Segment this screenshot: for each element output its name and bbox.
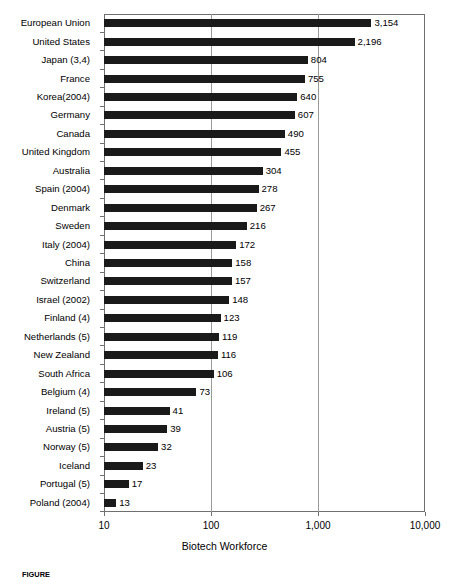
bar-row: Iceland23	[0, 457, 449, 475]
value-label: 607	[298, 110, 314, 120]
x-axis-tick	[318, 512, 319, 516]
value-label: 2,196	[358, 37, 382, 47]
value-label: 216	[250, 221, 266, 231]
category-label: Poland (2004)	[0, 498, 90, 508]
category-label: Sweden	[0, 221, 90, 231]
bar	[104, 148, 281, 156]
bar-row: Israel (2002)148	[0, 291, 449, 309]
x-axis-title: Biotech Workforce	[0, 540, 449, 552]
bar	[104, 314, 221, 322]
value-label: 13	[119, 498, 130, 508]
value-label: 106	[217, 369, 233, 379]
bar-row: Austria (5)39	[0, 420, 449, 438]
value-label: 148	[232, 295, 248, 305]
bar	[104, 333, 219, 341]
bar	[104, 277, 232, 285]
x-axis-tick-label: 100	[181, 520, 241, 531]
bar	[104, 259, 232, 267]
bar-row: New Zealand116	[0, 346, 449, 364]
x-axis-tick-label: 1,000	[288, 520, 348, 531]
bar	[104, 241, 236, 249]
category-label: Finland (4)	[0, 313, 90, 323]
bar	[104, 93, 297, 101]
bar-row: Korea(2004)640	[0, 88, 449, 106]
bar	[104, 222, 247, 230]
figure-biotech-workforce: European Union3,154United States2,196Jap…	[0, 0, 449, 578]
bar-row: Portugal (5)17	[0, 475, 449, 493]
bar-row: China158	[0, 254, 449, 272]
value-label: 119	[222, 332, 237, 342]
value-label: 41	[173, 406, 184, 416]
value-label: 640	[300, 92, 316, 102]
bar-rows: European Union3,154United States2,196Jap…	[0, 0, 449, 578]
category-label: European Union	[0, 18, 90, 28]
figure-caption: FIGURE	[22, 571, 432, 578]
bar-row: Norway (5)32	[0, 438, 449, 456]
category-label: Israel (2002)	[0, 295, 90, 305]
bar	[104, 130, 285, 138]
bar-row: Italy (2004)172	[0, 235, 449, 253]
category-label: Norway (5)	[0, 442, 90, 452]
category-label: China	[0, 258, 90, 268]
category-label: Italy (2004)	[0, 240, 90, 250]
bar	[104, 407, 170, 415]
value-label: 73	[199, 387, 210, 397]
category-label: Canada	[0, 129, 90, 139]
bar	[104, 425, 167, 433]
value-label: 455	[284, 147, 300, 157]
value-label: 755	[308, 74, 324, 84]
bar	[104, 499, 116, 507]
bar	[104, 370, 214, 378]
value-label: 123	[224, 313, 240, 323]
category-label: Switzerland	[0, 276, 90, 286]
bar-row: United Kingdom455	[0, 143, 449, 161]
bar	[104, 111, 295, 119]
category-label: Belgium (4)	[0, 387, 90, 397]
bar-row: Poland (2004)13	[0, 494, 449, 512]
value-label: 304	[266, 166, 282, 176]
bar	[104, 75, 305, 83]
caption-prefix: FIGURE	[22, 571, 50, 578]
bar	[104, 167, 263, 175]
category-label: South Africa	[0, 369, 90, 379]
bar	[104, 296, 229, 304]
category-label: Ireland (5)	[0, 406, 90, 416]
bar	[104, 388, 196, 396]
category-label: New Zealand	[0, 350, 90, 360]
bar-row: Canada490	[0, 125, 449, 143]
category-label: Australia	[0, 166, 90, 176]
x-axis-tick	[211, 512, 212, 516]
x-axis-tick	[104, 512, 105, 516]
bar	[104, 462, 143, 470]
bar-row: Spain (2004)278	[0, 180, 449, 198]
value-label: 278	[262, 184, 278, 194]
category-label: Germany	[0, 110, 90, 120]
bar-row: South Africa106	[0, 364, 449, 382]
bar-row: Sweden216	[0, 217, 449, 235]
category-label: France	[0, 74, 90, 84]
category-label: Portugal (5)	[0, 479, 90, 489]
bar-row: Ireland (5)41	[0, 401, 449, 419]
bar	[104, 443, 158, 451]
value-label: 23	[146, 461, 157, 471]
bar	[104, 19, 371, 27]
category-label: Denmark	[0, 203, 90, 213]
bar	[104, 204, 257, 212]
bar-row: Belgium (4)73	[0, 383, 449, 401]
bar-row: France755	[0, 69, 449, 87]
bar	[104, 185, 259, 193]
value-label: 804	[311, 55, 327, 65]
x-axis-tick-label: 10,000	[395, 520, 449, 531]
bar-row: European Union3,154	[0, 14, 449, 32]
value-label: 39	[170, 424, 181, 434]
value-label: 490	[288, 129, 304, 139]
value-label: 17	[132, 479, 143, 489]
bar	[104, 38, 355, 46]
value-label: 3,154	[374, 18, 398, 28]
x-axis-tick	[425, 512, 426, 516]
value-label: 32	[161, 442, 172, 452]
category-label: Iceland	[0, 461, 90, 471]
bar-row: Germany607	[0, 106, 449, 124]
value-label: 172	[239, 240, 255, 250]
category-label: United States	[0, 37, 90, 47]
